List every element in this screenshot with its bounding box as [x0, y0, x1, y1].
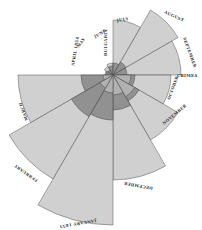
- wedges-group: [9, 10, 181, 225]
- label-august: AUGUST: [163, 9, 185, 23]
- label-december: DECEMBER: [123, 181, 153, 191]
- label-crimea: CRIMEA: [177, 73, 198, 78]
- label-bulgaria: BULGARIA: [103, 29, 108, 56]
- label-september: SEPTEMBER: [182, 37, 198, 69]
- nightingale-rose-chart: APRIL 1854 MAY JUNE BULGARIA JULY AUGUST…: [0, 0, 202, 230]
